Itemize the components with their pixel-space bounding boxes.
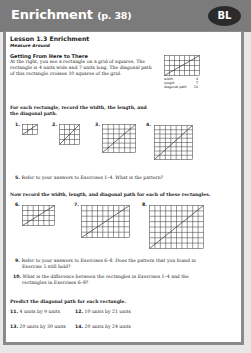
exercise-6-grid xyxy=(22,205,56,227)
exercise-4-number: 4. xyxy=(146,122,151,128)
exercise-3-number: 3. xyxy=(95,122,100,128)
question-11-number: 11. xyxy=(10,309,18,314)
diagonal-value: 10 xyxy=(194,85,198,89)
page-title: Enrichment (p. 38) xyxy=(11,7,131,22)
exercise-2-number: 2. xyxy=(52,122,57,128)
lesson-title: Lesson 1.3 Enrichment xyxy=(10,35,89,42)
question-10-line-2: rectangles in Exercises 6–8? xyxy=(22,280,88,286)
page-reference: (p. 38) xyxy=(97,10,131,21)
level-badge: BL xyxy=(208,6,241,26)
question-9-text-1: Refer to your answers to Exercises 6–8. … xyxy=(21,258,195,263)
question-5-number: 5. xyxy=(15,175,20,180)
question-9-line-2: Exercise 5 still hold? xyxy=(22,264,71,270)
question-13-text: 20 units by 30 units xyxy=(20,324,66,329)
exercise-8-grid xyxy=(149,205,205,250)
question-14: 14. 20 units by 24 units xyxy=(75,324,131,330)
question-9-number: 9. xyxy=(15,258,20,263)
question-14-number: 14. xyxy=(75,324,83,329)
question-5-text: Refer to your answers to Exercises 1–4. … xyxy=(21,175,163,180)
question-11-text: 4 units by 9 units xyxy=(20,309,60,314)
exercise-8-number: 8. xyxy=(142,202,147,208)
worksheet-content: Lesson 1.3 Enrichment Measure Around Get… xyxy=(6,32,241,342)
question-13-number: 13. xyxy=(10,324,18,329)
exercise-3-grid xyxy=(102,124,137,154)
example-legend: width4 length7 diagonal path10 xyxy=(164,77,198,89)
question-10-text-1: What is the difference between the recta… xyxy=(23,274,189,279)
section3-instructions: Predict the diagonal path for each recta… xyxy=(10,299,126,305)
exercise-7-grid xyxy=(81,205,131,239)
exercise-6-number: 6. xyxy=(15,202,20,208)
question-12-number: 12. xyxy=(75,309,83,314)
exercise-1-number: 1. xyxy=(15,122,20,128)
intro-line-3: of this rectangle crosses 10 squares of … xyxy=(10,71,121,77)
title-text: Enrichment xyxy=(11,7,93,22)
question-5: 5. Refer to your answers to Exercises 1–… xyxy=(15,175,163,181)
page-header: Enrichment (p. 38) BL xyxy=(0,0,251,32)
example-grid xyxy=(164,55,200,76)
question-12: 12. 10 units by 21 units xyxy=(75,309,131,315)
question-13: 13. 20 units by 30 units xyxy=(10,324,66,330)
diagonal-label: diagonal path xyxy=(164,85,187,89)
question-11: 11. 4 units by 9 units xyxy=(10,309,60,315)
question-12-text: 10 units by 21 units xyxy=(85,309,131,314)
section1-instructions-2: the diagonal path. xyxy=(10,111,57,117)
exercise-4-grid xyxy=(154,125,194,161)
lesson-subtitle: Measure Around xyxy=(10,43,50,48)
question-10-number: 10. xyxy=(13,274,21,279)
section2-instructions: Now record the width, length, and diagon… xyxy=(10,192,210,198)
exercise-2-grid xyxy=(59,124,81,146)
exercise-7-number: 7. xyxy=(74,202,79,208)
question-14-text: 20 units by 24 units xyxy=(85,324,131,329)
exercise-1-grid xyxy=(22,124,39,136)
